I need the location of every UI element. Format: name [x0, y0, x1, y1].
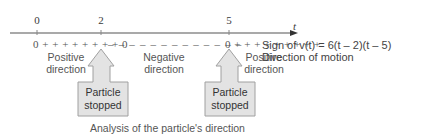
- stop-marker-1-text: Particle stopped: [78, 86, 128, 112]
- direction-label-negative: Negative direction: [138, 51, 190, 75]
- tick-label-0: 0: [34, 14, 40, 26]
- figure-caption: Analysis of the particle's direction: [90, 122, 245, 134]
- axis-variable-label: t: [293, 20, 296, 32]
- tick-label-2: 2: [98, 14, 104, 26]
- stop-marker-1-line2: stopped: [78, 99, 128, 112]
- tick-label-5: 5: [226, 14, 232, 26]
- stop-marker-2-line1: Particle: [205, 86, 255, 99]
- stop-marker-1-line1: Particle: [78, 86, 128, 99]
- direction-legend-label: Direction of motion: [262, 51, 354, 63]
- stop-marker-2-text: Particle stopped: [205, 86, 255, 112]
- sign-segment-negative: – – – – – – – – – – – – –: [108, 38, 243, 50]
- stop-marker-2-line2: stopped: [205, 99, 255, 112]
- direction-label-positive-1: Positive direction: [40, 51, 92, 75]
- sign-legend-label: Sign of v(t) = 6(t – 2)(t – 5): [262, 39, 391, 51]
